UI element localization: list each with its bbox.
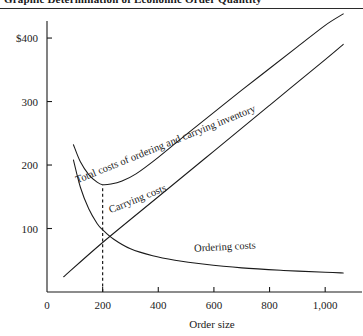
figure-title: Graphic Determination of Economic Order … <box>4 0 262 5</box>
y-tick-label-100: 100 <box>22 223 39 235</box>
y-tick-label-300: 300 <box>22 96 39 108</box>
y-tick-label-0: 0 <box>44 299 50 311</box>
x-tick-label-400: 400 <box>150 299 167 311</box>
x-tick-label-1000: 1,000 <box>313 299 338 311</box>
exhibit-figure: Graphic Determination of Economic Order … <box>0 0 363 336</box>
eoq-cost-chart: 0100200300$4002004006008001,000Order siz… <box>0 9 363 336</box>
series-label-total-costs: Total costs of ordering and carrying inv… <box>74 102 258 185</box>
x-tick-label-800: 800 <box>261 299 278 311</box>
series-label-carrying-costs: Carrying costs <box>107 182 168 215</box>
x-axis-title: Order size <box>189 318 235 330</box>
series-curve-ordering-costs <box>73 160 343 273</box>
y-tick-label-200: 200 <box>22 159 39 171</box>
series-label-ordering-costs: Ordering costs <box>194 240 256 254</box>
x-tick-label-200: 200 <box>94 299 111 311</box>
chart-plot-area: 0100200300$4002004006008001,000Order siz… <box>0 9 363 336</box>
y-tick-label-400: $400 <box>16 32 39 44</box>
x-tick-label-600: 600 <box>206 299 223 311</box>
